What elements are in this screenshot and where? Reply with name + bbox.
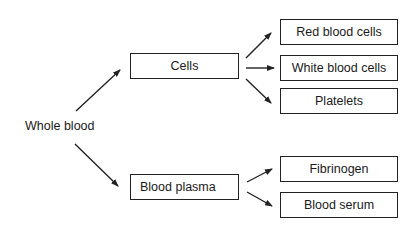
whole-blood-label: Whole blood <box>25 119 95 133</box>
blood-plasma-box: Blood plasma <box>130 174 239 200</box>
arrow-cells-to-platelets <box>246 79 271 103</box>
arrow-whole-to-plasma <box>75 144 118 186</box>
white-blood-cells-box: White blood cells <box>280 55 398 81</box>
arrow-plasma-to-fibrinogen <box>247 169 272 182</box>
arrow-whole-to-cells <box>76 70 120 111</box>
red-blood-cells-box: Red blood cells <box>280 19 398 45</box>
blood-serum-box: Blood serum <box>280 192 398 218</box>
platelets-box: Platelets <box>280 88 398 114</box>
cells-box: Cells <box>130 53 239 79</box>
arrow-cells-to-red <box>246 33 271 58</box>
arrow-plasma-to-serum <box>247 192 272 206</box>
fibrinogen-box: Fibrinogen <box>280 156 398 182</box>
